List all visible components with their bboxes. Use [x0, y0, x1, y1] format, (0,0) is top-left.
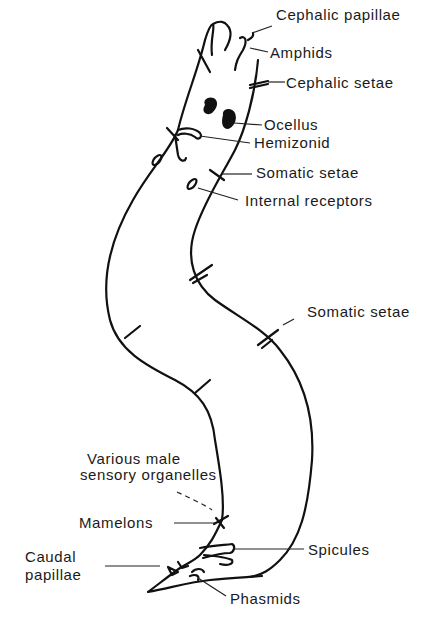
label-ocellus: Ocellus — [264, 116, 318, 133]
nematode-diagram: Cephalic papillae Amphids Cephalic setae… — [0, 0, 447, 621]
leader-ocellus — [234, 123, 262, 125]
internal-receptor-left — [151, 153, 163, 166]
cephalic-papillae-tip — [248, 33, 253, 40]
label-male-sensory-line1: Various male — [87, 450, 181, 467]
leader-hemizonid — [200, 136, 250, 143]
label-phasmids: Phasmids — [230, 590, 301, 607]
cephalic-seta-right — [250, 81, 268, 88]
ocellus-left — [203, 98, 217, 115]
phasmids-shape — [190, 569, 204, 580]
somatic-seta-left-2 — [195, 380, 210, 393]
label-hemizonid: Hemizonid — [254, 134, 330, 151]
ocellus-right — [222, 109, 236, 129]
label-somatic-setae-mid: Somatic setae — [307, 303, 410, 320]
label-caudal-papillae-line2: papillae — [25, 566, 82, 583]
label-cephalic-papillae: Cephalic papillae — [276, 6, 400, 23]
leader-somatic-setae-mid — [283, 319, 294, 325]
internal-receptor-right — [186, 177, 198, 190]
cephalic-papillae-shape — [205, 22, 246, 70]
label-spicules: Spicules — [308, 541, 370, 558]
hemizonid-shape — [175, 128, 201, 160]
leader-amphids — [250, 48, 268, 52]
leader-cephalic-papillae — [252, 26, 272, 33]
label-somatic-setae-anterior: Somatic setae — [256, 164, 359, 181]
label-cephalic-setae: Cephalic setae — [286, 74, 394, 91]
somatic-seta-left-1 — [125, 326, 140, 338]
label-caudal-papillae-line1: Caudal — [25, 548, 76, 565]
label-mamelons: Mamelons — [79, 514, 153, 531]
leader-male-sensory — [177, 492, 212, 510]
label-amphids: Amphids — [270, 44, 333, 61]
spicules-shape — [200, 544, 234, 565]
label-male-sensory-line2: sensory organelles — [80, 466, 217, 483]
label-internal-receptors: Internal receptors — [245, 192, 373, 209]
leader-internal-receptors — [198, 188, 238, 200]
